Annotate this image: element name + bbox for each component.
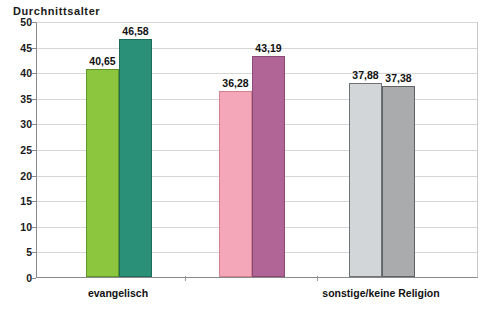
bar [219, 91, 252, 277]
y-axis-tick-label: 15 [2, 195, 32, 207]
bar-value-label: 43,19 [255, 42, 281, 54]
y-axis-tick-label: 50 [2, 16, 32, 28]
bar [382, 86, 415, 277]
y-axis-tick-label: 25 [2, 144, 32, 156]
category-separator [185, 276, 186, 281]
plot-area: 40,6546,5836,2843,1937,8837,38 [36, 22, 478, 278]
bar-value-label: 46,58 [122, 25, 148, 37]
category-separator [317, 276, 318, 281]
y-axis-labels: 50454035302520151050 [0, 22, 32, 278]
y-axis-tick-label: 5 [2, 246, 32, 258]
chart-container: Durchnittsalter 50454035302520151050 40,… [0, 0, 492, 310]
bar-value-label: 37,88 [352, 69, 378, 81]
y-axis-tick-label: 10 [2, 221, 32, 233]
y-axis-tick-label: 30 [2, 118, 32, 130]
bar [252, 56, 285, 277]
x-axis-category-label: sonstige/keine Religion [322, 287, 439, 299]
y-axis-tick-label: 20 [2, 170, 32, 182]
x-axis-category-label: evangelisch [88, 287, 148, 299]
y-axis-tick-label: 40 [2, 67, 32, 79]
y-axis-tick [32, 278, 36, 279]
bar-value-label: 40,65 [89, 55, 115, 67]
y-axis-tick-label: 45 [2, 42, 32, 54]
bar-value-label: 36,28 [222, 77, 248, 89]
gridline [37, 22, 477, 23]
y-axis-tick-label: 0 [2, 272, 32, 284]
y-axis-tick-label: 35 [2, 93, 32, 105]
bar [119, 39, 152, 277]
bar-value-label: 37,38 [385, 72, 411, 84]
bar [86, 69, 119, 277]
bar [349, 83, 382, 277]
